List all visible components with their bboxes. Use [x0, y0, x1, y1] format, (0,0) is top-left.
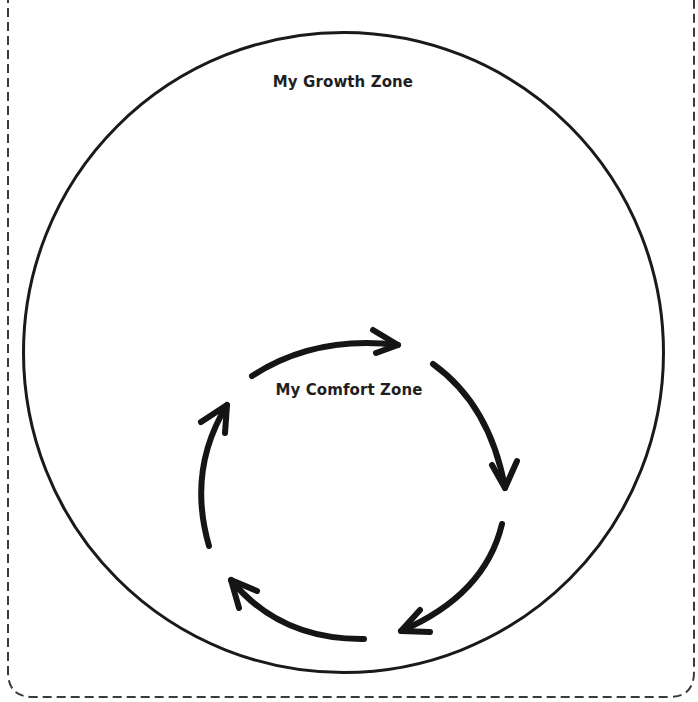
comfort-zone-label: My Comfort Zone	[275, 381, 422, 399]
diagram-svg	[0, 0, 698, 702]
cycle-arrow-top-icon	[252, 330, 398, 376]
cycle-arrow-bottom-left-icon	[231, 580, 364, 639]
cycle-arrow-right-icon	[433, 364, 517, 488]
dashed-frame	[8, 0, 694, 697]
cycle-arrow-left-icon	[201, 405, 227, 546]
growth-zone-label: My Growth Zone	[273, 73, 413, 91]
growth-zone-circle	[24, 33, 664, 673]
cycle-arrow-bottom-right-icon	[401, 524, 502, 632]
diagram-canvas: My Growth Zone My Comfort Zone	[0, 0, 698, 702]
comfort-zone-arrows	[201, 330, 517, 639]
